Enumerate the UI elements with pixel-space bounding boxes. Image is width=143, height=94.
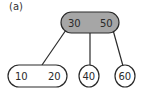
child-node-right: 60	[115, 65, 135, 87]
root-key-2: 50	[100, 18, 113, 29]
edge-root-right	[113, 30, 123, 66]
root-key-1: 30	[68, 18, 81, 29]
tree-diagram: 30 50 10 20 40 60	[0, 0, 143, 94]
child-node-left: 10 20	[8, 65, 67, 87]
left-key-2: 20	[48, 71, 61, 82]
left-key-1: 10	[15, 71, 28, 82]
child-node-middle: 40	[79, 65, 99, 87]
edge-root-left	[42, 30, 66, 65]
root-node: 30 50	[61, 12, 119, 33]
middle-key: 40	[83, 71, 96, 82]
right-key: 60	[119, 71, 132, 82]
